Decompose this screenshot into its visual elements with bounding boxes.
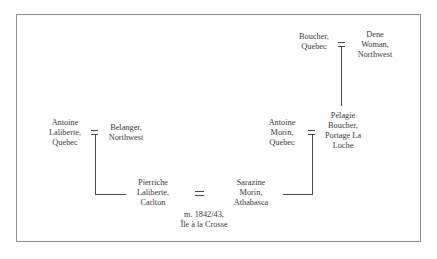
person-pelagie-boucher: Pélagie Boucher, Portage La Loche bbox=[318, 111, 368, 151]
person-antoine-morin: Antoine Morin, Quebec bbox=[260, 118, 304, 148]
person-belanger: Belanger, Northwest bbox=[102, 123, 150, 143]
descent-line-boucher-to-pelagie bbox=[341, 46, 342, 106]
person-dene-woman: Dene Woman, Northwest bbox=[350, 30, 400, 60]
descent-line-morin-horizontal bbox=[283, 194, 313, 195]
person-sarazine-morin: Sarazine Morin, Athabasca bbox=[226, 178, 276, 208]
descent-line-laliberte-to-pierriche bbox=[95, 134, 96, 194]
person-boucher-quebec: Boucher, Quebec bbox=[292, 32, 336, 52]
person-antoine-laliberte: Antoine Laliberte, Quebec bbox=[40, 118, 90, 148]
marriage-symbol-pierriche-sarazine bbox=[195, 191, 204, 196]
person-pierriche-laliberte: Pierriche Laliberte, Carlton bbox=[128, 178, 178, 208]
descent-line-morin-to-sarazine bbox=[312, 134, 313, 194]
descent-line-laliberte-horizontal bbox=[95, 194, 126, 195]
marriage-note: m. 1842/43, Île à la Crosse bbox=[168, 210, 240, 230]
